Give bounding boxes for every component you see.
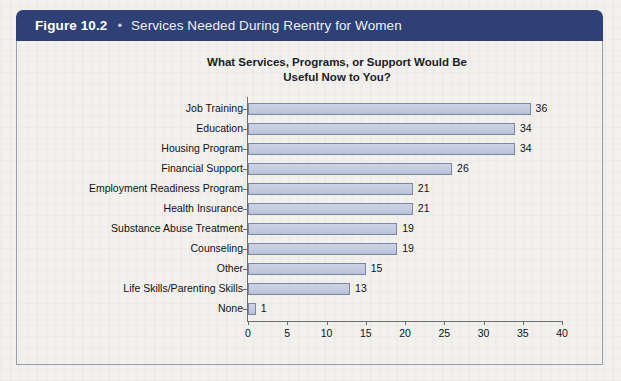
bar-value-label: 21 <box>418 202 430 214</box>
category-label: Financial Support <box>161 162 243 174</box>
bullet-separator-icon: • <box>117 19 122 32</box>
x-axis-tick-label: 10 <box>321 327 333 339</box>
x-axis-tick-label: 5 <box>284 327 290 339</box>
figure-container: Figure 10.2 • Services Needed During Ree… <box>16 10 603 365</box>
bar <box>248 143 515 155</box>
bar <box>248 123 515 135</box>
y-axis-tick <box>243 289 247 290</box>
chart-title-line-2: Useful Now to You? <box>137 70 537 85</box>
bar-row: Housing Program34 <box>47 139 592 159</box>
bar-value-label: 21 <box>418 182 430 194</box>
bar-row: Life Skills/Parenting Skills13 <box>47 279 592 299</box>
bar <box>248 223 397 235</box>
bar-value-label: 1 <box>261 302 267 314</box>
bar-chart: What Services, Programs, or Support Woul… <box>17 41 602 363</box>
x-axis-tick <box>484 321 485 325</box>
bar <box>248 243 397 255</box>
category-label: Life Skills/Parenting Skills <box>123 282 243 294</box>
bar <box>248 103 531 115</box>
y-axis-tick <box>243 109 247 110</box>
bar-value-label: 15 <box>371 262 383 274</box>
bar <box>248 183 413 195</box>
bar-row: Education34 <box>47 119 592 139</box>
category-label: None <box>218 302 243 314</box>
bar <box>248 283 350 295</box>
x-axis-tick-label: 20 <box>399 327 411 339</box>
bar-value-label: 34 <box>520 122 532 134</box>
y-axis-tick <box>243 209 247 210</box>
figure-title: Services Needed During Reentry for Women <box>131 18 402 33</box>
bar-value-label: 36 <box>536 102 548 114</box>
bar-row: Financial Support26 <box>47 159 592 179</box>
y-axis-tick <box>243 229 247 230</box>
category-label: Employment Readiness Program <box>89 182 243 194</box>
bar <box>248 163 452 175</box>
x-axis-tick-label: 40 <box>556 327 568 339</box>
x-axis-tick <box>366 321 367 325</box>
bar <box>248 203 413 215</box>
category-label: Housing Program <box>161 142 243 154</box>
bar-row: Counseling19 <box>47 239 592 259</box>
x-axis-tick-label: 0 <box>245 327 251 339</box>
y-axis-tick <box>243 149 247 150</box>
category-label: Substance Abuse Treatment <box>111 222 243 234</box>
bar-row: Substance Abuse Treatment19 <box>47 219 592 239</box>
category-label: Job Training <box>186 102 243 114</box>
bar-value-label: 34 <box>520 142 532 154</box>
y-axis-tick <box>243 309 247 310</box>
category-label: Counseling <box>190 242 243 254</box>
x-axis-tick-label: 30 <box>478 327 490 339</box>
x-axis-tick <box>562 321 563 325</box>
category-label: Health Insurance <box>164 202 243 214</box>
figure-header: Figure 10.2 • Services Needed During Ree… <box>16 10 603 41</box>
y-axis-tick <box>243 129 247 130</box>
x-axis-tick <box>327 321 328 325</box>
x-axis-tick-label: 35 <box>517 327 529 339</box>
bar <box>248 303 256 315</box>
y-axis-tick <box>243 269 247 270</box>
bar-value-label: 19 <box>402 242 414 254</box>
bar-row: None1 <box>47 299 592 319</box>
y-axis-tick <box>243 169 247 170</box>
plot-area: Job Training36Education34Housing Program… <box>47 97 592 345</box>
x-axis-tick <box>523 321 524 325</box>
bar-row: Employment Readiness Program21 <box>47 179 592 199</box>
x-axis-tick-label: 25 <box>438 327 450 339</box>
bar-row: Job Training36 <box>47 99 592 119</box>
x-axis-tick <box>248 321 249 325</box>
bar-value-label: 26 <box>457 162 469 174</box>
bar-row: Other15 <box>47 259 592 279</box>
category-label: Education <box>196 122 243 134</box>
chart-title: What Services, Programs, or Support Woul… <box>137 55 537 84</box>
figure-number: Figure 10.2 <box>35 18 107 33</box>
x-axis-tick <box>405 321 406 325</box>
figure-body: What Services, Programs, or Support Woul… <box>16 41 603 365</box>
x-axis-tick <box>444 321 445 325</box>
bar-value-label: 13 <box>355 282 367 294</box>
bar-row: Health Insurance21 <box>47 199 592 219</box>
y-axis-tick <box>243 249 247 250</box>
x-axis-tick <box>287 321 288 325</box>
bar <box>248 263 366 275</box>
bar-value-label: 19 <box>402 222 414 234</box>
chart-title-line-1: What Services, Programs, or Support Woul… <box>137 55 537 70</box>
x-axis-tick-label: 15 <box>360 327 372 339</box>
category-label: Other <box>217 262 243 274</box>
y-axis-tick <box>243 189 247 190</box>
